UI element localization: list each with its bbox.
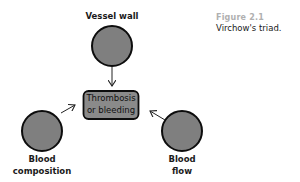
thrombosis-box-line2: or bleeding: [84, 105, 138, 117]
blood-flow-label: Blood flow: [162, 153, 202, 177]
blood-flow-label-line2: flow: [162, 165, 202, 177]
vessel-wall-label-text: Vessel wall: [85, 11, 138, 21]
blood-composition-label-line2: composition: [5, 165, 79, 177]
vessel-wall-label: Vessel wall: [82, 10, 142, 22]
virchow-triad-diagram: Vessel wall Blood composition Blood flow…: [0, 0, 300, 182]
figure-caption: Figure 2.1 Virchow's triad.: [216, 12, 281, 34]
arrow-blood-composition-to-center: [61, 105, 75, 113]
blood-flow-label-line1: Blood: [162, 153, 202, 165]
blood-composition-node: [22, 111, 62, 151]
blood-composition-label: Blood composition: [5, 153, 79, 177]
thrombosis-box-text: Thrombosis or bleeding: [84, 93, 138, 116]
blood-flow-node: [162, 111, 202, 151]
figure-number: Figure 2.1: [216, 12, 281, 23]
vessel-wall-node: [92, 26, 132, 66]
blood-composition-label-line1: Blood: [5, 153, 79, 165]
arrow-blood-flow-to-center: [150, 111, 165, 120]
figure-title: Virchow's triad.: [216, 23, 281, 34]
thrombosis-box-line1: Thrombosis: [84, 93, 138, 105]
